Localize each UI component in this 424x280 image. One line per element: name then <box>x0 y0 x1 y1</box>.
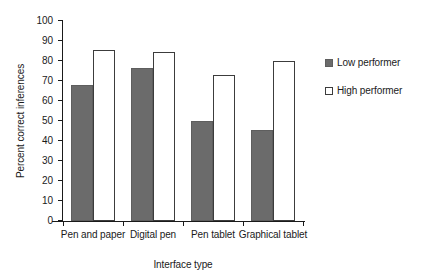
x-tick-mark <box>303 221 304 226</box>
y-axis-title: Percent correct inferences <box>14 21 28 221</box>
bar <box>93 50 115 221</box>
bar <box>153 52 175 221</box>
bar <box>191 121 213 221</box>
x-tick-mark <box>63 221 64 226</box>
chart-legend: Low performerHigh performer <box>325 56 402 112</box>
plot-area <box>63 21 303 221</box>
y-tick-label: 30 <box>27 154 53 167</box>
x-tick-mark <box>243 221 244 226</box>
y-tick-label: 100 <box>27 14 53 27</box>
x-axis-line <box>52 221 305 222</box>
bar <box>251 130 273 221</box>
y-tick-label: 10 <box>27 194 53 207</box>
x-axis-title: Interface type <box>63 258 303 271</box>
legend-label: Low performer <box>337 56 400 69</box>
y-tick-label: 60 <box>27 94 53 107</box>
y-tick-label: 40 <box>27 134 53 147</box>
y-tick-label: 50 <box>27 114 53 127</box>
bar <box>71 85 93 221</box>
bar <box>273 61 295 221</box>
legend-swatch-low-performer <box>325 59 333 67</box>
y-tick-label: 20 <box>27 174 53 187</box>
x-axis-category-label: Graphical tablet <box>235 229 311 241</box>
legend-swatch-high-performer <box>325 87 333 95</box>
y-tick-label: 80 <box>27 54 53 67</box>
bar-chart: Percent correct inferences 1009080706050… <box>0 0 424 280</box>
y-tick-label: 0 <box>27 214 53 227</box>
x-tick-mark <box>183 221 184 226</box>
y-tick-label: 70 <box>27 74 53 87</box>
x-tick-mark <box>123 221 124 226</box>
legend-item: Low performer <box>325 56 402 69</box>
y-tick-label: 90 <box>27 34 53 47</box>
bar <box>131 68 153 221</box>
bar <box>213 75 235 221</box>
legend-label: High performer <box>337 84 402 97</box>
legend-item: High performer <box>325 84 402 97</box>
